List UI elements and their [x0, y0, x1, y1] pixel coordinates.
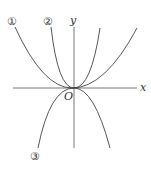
- curve-1: [15, 27, 137, 88]
- origin-label: O: [64, 90, 73, 103]
- curve-3-label: ③: [30, 150, 40, 163]
- curve-2-label: ②: [43, 15, 53, 28]
- graph: ① ② ③ y x O: [0, 0, 151, 170]
- x-axis-label: x: [140, 81, 147, 94]
- curve-2: [51, 27, 100, 88]
- y-axis-label: y: [69, 14, 77, 27]
- curve-1-label: ①: [7, 15, 17, 28]
